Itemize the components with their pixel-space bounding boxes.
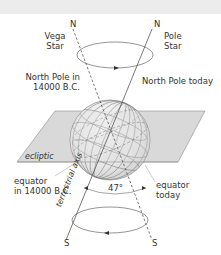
- precession-diagram: [0, 0, 221, 255]
- north-pole-today-label: North Pole today: [142, 76, 213, 86]
- south-label-today: S: [64, 238, 69, 248]
- ecliptic-label: ecliptic: [25, 152, 54, 162]
- equator-today-label: equator today: [156, 180, 189, 200]
- precession-circle-bottom: [72, 207, 148, 233]
- north-pole-past-label: North Pole in 14000 B.C.: [24, 72, 80, 92]
- vega-star-label: Vega Star: [40, 31, 70, 51]
- pole-star-label: Pole Star: [164, 31, 182, 51]
- south-label-past: S: [152, 238, 157, 248]
- north-label-past: N: [70, 19, 76, 29]
- north-label-today: N: [154, 19, 160, 29]
- arrow-icon: [114, 66, 119, 70]
- angle-label: 47°: [108, 183, 123, 193]
- arrow-icon: [104, 231, 109, 235]
